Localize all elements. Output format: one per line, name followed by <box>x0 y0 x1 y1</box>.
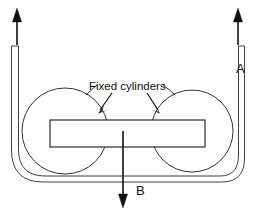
diagram-canvas: Fixed cylinders A B <box>0 0 264 220</box>
force-b-label: B <box>136 183 145 198</box>
belt-outer-line <box>12 46 245 182</box>
force-a-label: A <box>236 61 245 76</box>
cylinders-leader-left-line <box>100 93 112 110</box>
fixed-cylinders-label: Fixed cylinders <box>89 80 166 92</box>
force-a-left-arrowhead <box>12 8 21 22</box>
force-b-arrowhead <box>118 194 127 208</box>
horizontal-bar <box>50 120 205 147</box>
cylinders-leader-right-line <box>147 93 158 110</box>
force-a-right-arrowhead <box>233 8 242 22</box>
belt-cylinder-diagram: Fixed cylinders A B <box>0 0 264 220</box>
belt-inner-line <box>19 46 239 176</box>
